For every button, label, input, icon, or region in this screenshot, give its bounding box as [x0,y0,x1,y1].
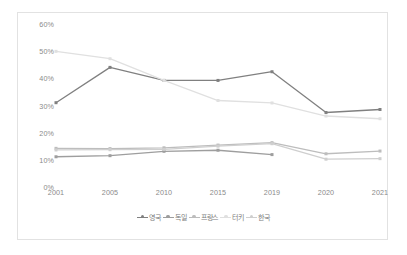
legend-item-label: 독일 [175,212,187,222]
series-3 [55,141,382,155]
data-point-marker [55,50,58,53]
legend-item-2[interactable]: 독일 [162,212,188,222]
data-point-marker [325,115,328,118]
x-axis-tick-label: 2005 [90,188,130,197]
data-point-marker [109,66,112,69]
x-axis-tick-label: 2019 [252,188,292,197]
data-point-marker [379,150,382,153]
series-4 [55,50,382,120]
legend-item-4[interactable]: 터키 [219,212,245,222]
y-axis-tick-label: 10% [26,157,54,165]
data-point-marker [379,108,382,111]
plot-area: 0%10%20%30%40%50%60% 2001200520102015201… [18,13,389,241]
data-point-marker [379,117,382,120]
x-axis-tick-label: 2015 [198,188,238,197]
x-axis: 2001200520102015201920202021 [18,188,389,202]
data-point-marker [109,154,112,157]
legend-marker-icon [246,214,257,221]
y-axis-tick-label: 60% [26,21,54,29]
legend-marker-icon [163,214,174,221]
data-point-marker [325,111,328,114]
legend-item-label: 터키 [232,212,244,222]
chart-container: 0%10%20%30%40%50%60% 2001200520102015201… [17,12,388,240]
data-point-marker [325,158,328,161]
data-point-marker [271,70,274,73]
legend-item-1[interactable]: 영국 [136,212,162,222]
data-point-marker [163,148,166,151]
x-axis-tick-label: 2010 [144,188,184,197]
y-axis-tick-label: 30% [26,103,54,111]
data-point-marker [163,79,166,82]
data-point-marker [217,149,220,152]
legend-item-label: 한국 [258,212,270,222]
line-chart-svg [18,13,389,241]
data-point-marker [325,152,328,155]
legend-item-5[interactable]: 한국 [245,212,271,222]
data-point-marker [109,148,112,151]
series-line [56,67,380,112]
legend-marker-icon [220,214,231,221]
y-axis-tick-label: 50% [26,48,54,56]
x-axis-tick-label: 2021 [360,188,400,197]
legend-item-3[interactable]: 프랑스 [188,212,220,222]
data-point-marker [55,148,58,151]
legend-marker-icon [189,214,200,221]
data-point-marker [217,79,220,82]
y-axis-tick-label: 40% [26,75,54,83]
data-point-marker [217,145,220,148]
data-point-marker [271,153,274,156]
data-point-marker [109,57,112,60]
legend-item-label: 프랑스 [201,212,219,222]
data-point-marker [55,155,58,158]
data-point-marker [271,101,274,104]
legend-item-label: 영국 [149,212,161,222]
chart-legend: 영국독일프랑스터키한국 [18,209,389,225]
y-axis-tick-label: 20% [26,130,54,138]
x-axis-tick-label: 2020 [306,188,346,197]
series-line [56,51,380,118]
x-axis-tick-label: 2001 [36,188,76,197]
data-point-marker [217,99,220,102]
data-point-marker [55,101,58,104]
data-point-marker [271,142,274,145]
legend-marker-icon [137,214,148,221]
y-axis: 0%10%20%30%40%50%60% [24,13,54,241]
series-1 [55,66,382,114]
data-point-marker [379,157,382,160]
